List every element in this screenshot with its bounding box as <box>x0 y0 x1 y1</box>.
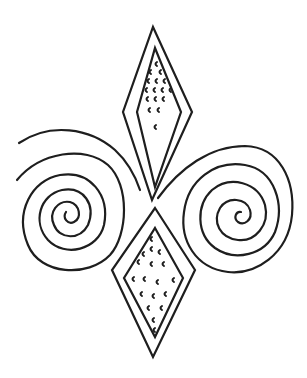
top-diamond-crescents <box>146 62 172 129</box>
line-art-figure <box>0 0 307 378</box>
motif-svg <box>0 0 307 378</box>
left-spiral <box>17 130 140 270</box>
left-spiral-line-b <box>17 154 124 271</box>
right-spiral-line <box>158 146 292 272</box>
bottom-diamond <box>112 208 195 357</box>
top-diamond-inner <box>137 48 181 187</box>
right-spiral <box>158 146 292 272</box>
left-spiral-line-a <box>19 130 140 190</box>
